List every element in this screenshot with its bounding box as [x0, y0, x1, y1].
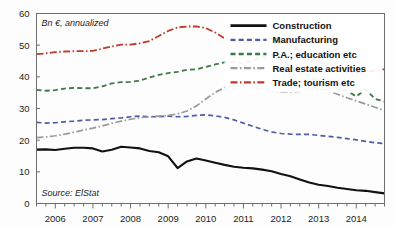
y-tick-label: 60 [19, 8, 30, 19]
x-tick-label: 2011 [233, 213, 253, 224]
x-tick-label: 2013 [308, 213, 329, 224]
y-tick-label: 10 [19, 166, 30, 177]
series-line-real-estate-activities [37, 85, 385, 138]
x-tick-label: 2007 [82, 213, 103, 224]
legend-item-label: Manufacturing [273, 34, 339, 45]
legend-item-label: P.A.; education etc [273, 49, 357, 60]
y-axis-tickmarks [37, 14, 41, 204]
x-tick-label: 2012 [270, 213, 291, 224]
y-tick-label: 0 [24, 198, 29, 209]
x-tick-label: 2014 [346, 213, 367, 224]
x-tick-label: 2008 [120, 213, 141, 224]
x-axis-tick-labels: 200620072008200920102011201220132014 [45, 213, 367, 224]
y-tick-label: 20 [19, 135, 30, 146]
legend-item-label: Trade; tourism etc [273, 77, 355, 88]
y-tick-label: 30 [19, 103, 30, 114]
unit-label: Bn €, annualized [42, 18, 110, 28]
series-line-construction [37, 147, 385, 194]
legend-item-label: Construction [273, 20, 332, 31]
chart-legend: ConstructionManufacturingP.A.; education… [225, 16, 383, 93]
chart-container: 6050403020100 20062007200820092010201120… [0, 0, 395, 228]
x-axis-tickmarks [55, 204, 356, 209]
line-chart: 6050403020100 20062007200820092010201120… [0, 0, 395, 228]
y-axis-tick-labels: 6050403020100 [19, 8, 30, 209]
legend-item-label: Real estate activities [273, 63, 366, 74]
x-tick-label: 2010 [195, 213, 216, 224]
x-tick-label: 2009 [158, 213, 179, 224]
source-label: Source: ElStat [42, 188, 100, 198]
x-tick-label: 2006 [45, 213, 66, 224]
series-line-manufacturing [37, 115, 385, 144]
y-tick-label: 50 [19, 40, 30, 51]
y-tick-label: 40 [19, 71, 30, 82]
